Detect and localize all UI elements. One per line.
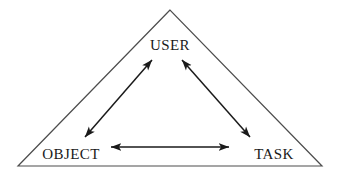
node-label-task: TASK bbox=[254, 147, 294, 162]
diagram-canvas: USER OBJECT TASK bbox=[0, 0, 340, 180]
triangle-outline bbox=[18, 10, 322, 166]
node-label-object: OBJECT bbox=[42, 147, 99, 162]
connector-object-user bbox=[85, 60, 152, 137]
node-label-user: USER bbox=[150, 38, 190, 53]
connector-user-task bbox=[182, 60, 250, 137]
